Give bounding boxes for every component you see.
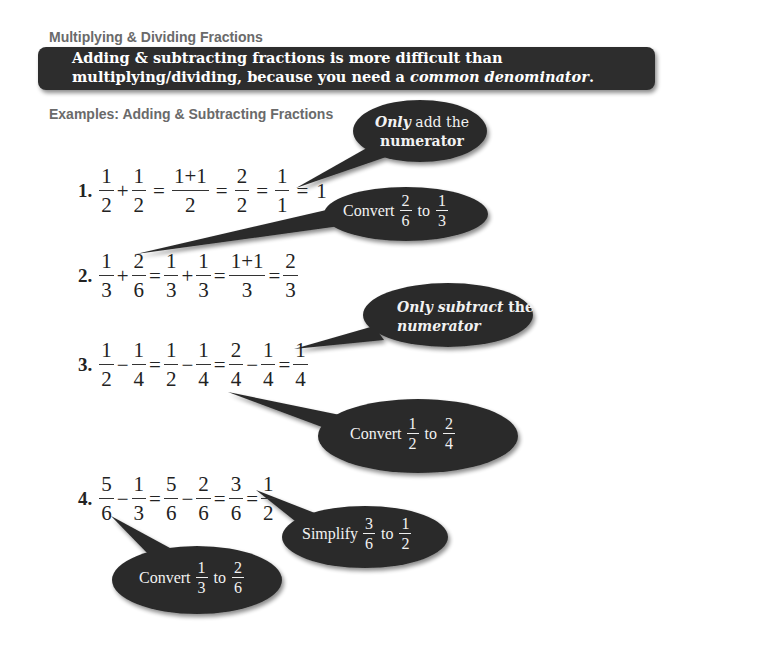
fraction: 14: [293, 340, 308, 390]
fraction: 12: [164, 340, 179, 390]
example-4-equation: 4.56−13=56−26=36=12: [78, 474, 276, 524]
fraction: 36: [363, 516, 375, 552]
fraction: 13: [196, 251, 211, 301]
operator: =: [296, 179, 308, 204]
operator: −: [117, 487, 129, 512]
operator: =: [149, 353, 161, 378]
numerator: 1: [196, 340, 211, 364]
fraction: 24: [443, 416, 455, 452]
example-number: 3.: [78, 354, 92, 376]
denominator: 6: [363, 534, 375, 552]
denominator: 4: [196, 365, 211, 390]
numerator: 5: [164, 474, 179, 498]
denominator: 6: [132, 276, 147, 301]
operator: =: [214, 264, 226, 289]
fraction: 13: [99, 251, 114, 301]
operator: =: [216, 179, 228, 204]
numerator: 1: [399, 516, 411, 533]
numerator: 1: [196, 251, 211, 275]
callout-convert-2-6-text: Convert26to13: [343, 193, 449, 229]
fraction: 24: [229, 340, 244, 390]
numerator: 1: [132, 340, 147, 364]
operator: =: [268, 264, 280, 289]
denominator: 2: [132, 191, 147, 216]
callout-word: to: [418, 202, 430, 220]
callout-shapes: [0, 0, 764, 655]
operator: +: [117, 264, 129, 289]
operator: +: [117, 179, 129, 204]
denominator: 4: [132, 365, 147, 390]
denominator: 2: [99, 191, 114, 216]
fraction: 14: [196, 340, 211, 390]
numerator: 1: [261, 340, 276, 364]
numerator: 1+1: [172, 166, 209, 190]
denominator: 3: [196, 578, 208, 596]
numerator: 2: [132, 251, 147, 275]
callout-convert-1-2-text: Convert12to24: [350, 416, 456, 452]
denominator: 4: [229, 365, 244, 390]
operator: −: [117, 353, 129, 378]
operator: =: [214, 487, 226, 512]
fraction: 23: [283, 251, 298, 301]
example-1-equation: 1.12+12=1+12=22=11=1: [78, 166, 329, 216]
denominator: 3: [164, 276, 179, 301]
numerator: 1: [436, 193, 448, 210]
numerator: 2: [232, 560, 244, 577]
denominator: 2: [261, 499, 276, 524]
numerator: 1: [407, 416, 419, 433]
callout-word: Convert: [343, 202, 395, 220]
fraction: 26: [232, 560, 244, 596]
callout-simplify-text: Simplify36to12: [302, 516, 412, 552]
example-2-equation: 2.13+26=13+13=1+13=23: [78, 251, 299, 301]
fraction: 13: [196, 560, 208, 596]
callout-only-add-text: Only add the numerator: [375, 113, 469, 151]
numerator: 3: [229, 474, 244, 498]
example-number: 1.: [78, 180, 92, 202]
numerator: 2: [400, 193, 412, 210]
denominator: 6: [196, 499, 211, 524]
operator: −: [181, 353, 193, 378]
denominator: 2: [99, 365, 114, 390]
callout-text: the: [503, 299, 533, 315]
callout-emphasis: Only: [375, 114, 411, 130]
fraction: 14: [132, 340, 147, 390]
denominator: 1: [275, 191, 290, 216]
operator: =: [214, 353, 226, 378]
fraction: 12: [399, 516, 411, 552]
denominator: 2: [164, 365, 179, 390]
numerator: 1: [99, 340, 114, 364]
fraction: 13: [132, 474, 147, 524]
denominator: 6: [164, 499, 179, 524]
callout-word: to: [381, 525, 393, 543]
operator: =: [246, 487, 258, 512]
operator: =: [278, 353, 290, 378]
fraction: 12: [132, 166, 147, 216]
denominator: 4: [443, 434, 455, 452]
numerator: 1: [261, 474, 276, 498]
callout-word: Simplify: [302, 525, 358, 543]
numerator: 2: [196, 474, 211, 498]
fraction: 14: [261, 340, 276, 390]
fraction: 13: [164, 251, 179, 301]
numerator: 1: [132, 166, 147, 190]
callout-only-subtract-text: Only subtract the numerator: [397, 298, 534, 336]
example-number: 2.: [78, 265, 92, 287]
numerator: 1+1: [229, 251, 266, 275]
fraction: 26: [196, 474, 211, 524]
fraction: 12: [407, 416, 419, 452]
numerator: 1: [275, 166, 290, 190]
operator: −: [246, 353, 258, 378]
result-value: 1: [316, 179, 327, 204]
denominator: 2: [399, 534, 411, 552]
fraction: 11: [275, 166, 290, 216]
operator: =: [153, 179, 165, 204]
numerator: 1: [132, 474, 147, 498]
callout-convert-1-3-text: Convert13to26: [139, 560, 245, 596]
numerator: 2: [235, 166, 250, 190]
fraction: 56: [99, 474, 114, 524]
fraction: 12: [261, 474, 276, 524]
numerator: 1: [293, 340, 308, 364]
denominator: 3: [99, 276, 114, 301]
operator: =: [149, 264, 161, 289]
numerator: 2: [443, 416, 455, 433]
